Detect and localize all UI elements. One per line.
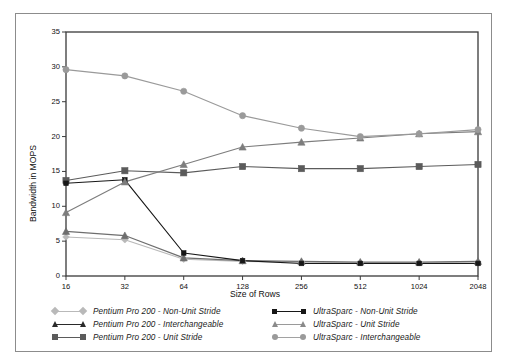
x-tick-label: 128 (223, 282, 263, 291)
legend-label: UltraSparc - Unit Stride (313, 319, 400, 330)
x-tick-label: 1024 (399, 282, 439, 291)
figure-canvas: Bandwidth in MOPS Size of Rows Pentium P… (0, 0, 510, 364)
legend-key-square-small (272, 306, 306, 317)
legend-item: UltraSparc - Non-Unit Stride (272, 305, 420, 318)
legend-label: UltraSparc - Non-Unit Stride (313, 306, 418, 317)
x-tick-label: 64 (164, 282, 204, 291)
y-tick-label: 20 (28, 132, 60, 141)
x-tick-label: 512 (340, 282, 380, 291)
x-tick-label: 32 (105, 282, 145, 291)
y-tick-label: 35 (28, 27, 60, 36)
legend-label: Pentium Pro 200 - Interchangeable (93, 319, 223, 330)
x-tick-label: 256 (281, 282, 321, 291)
legend-key-diamond (52, 306, 86, 317)
legend-key-circle (272, 332, 306, 343)
x-tick-label: 16 (46, 282, 86, 291)
legend-label: Pentium Pro 200 - Unit Stride (93, 332, 202, 343)
legend-item: Pentium Pro 200 - Non-Unit Stride (52, 305, 223, 318)
y-tick-label: 0 (28, 271, 60, 280)
legend-item: Pentium Pro 200 - Interchangeable (52, 318, 223, 331)
x-tick-label: 2048 (458, 282, 498, 291)
y-tick-label: 15 (28, 166, 60, 175)
legend-label: UltraSparc - Interchangeable (313, 332, 420, 343)
legend-item: UltraSparc - Interchangeable (272, 331, 420, 344)
y-tick-label: 10 (28, 201, 60, 210)
legend-pentium-pro: Pentium Pro 200 - Non-Unit Stride Pentiu… (52, 305, 223, 344)
legend-item: UltraSparc - Unit Stride (272, 318, 420, 331)
y-tick-label: 5 (28, 236, 60, 245)
legend-key-square (52, 332, 86, 343)
y-tick-label: 25 (28, 97, 60, 106)
y-tick-label: 30 (28, 62, 60, 71)
legend-key-triangle (52, 319, 86, 330)
legend-ultrasparc: UltraSparc - Non-Unit Stride UltraSparc … (272, 305, 420, 344)
legend-key-triangle (272, 319, 306, 330)
legend-label: Pentium Pro 200 - Non-Unit Stride (93, 306, 221, 317)
y-axis-title: Bandwidth in MOPS (28, 145, 38, 222)
legend-item: Pentium Pro 200 - Unit Stride (52, 331, 223, 344)
